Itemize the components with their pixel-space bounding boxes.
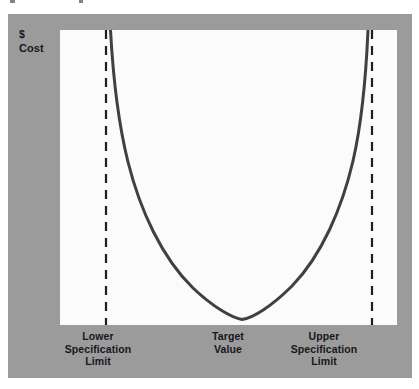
- upper-specification-limit-label: Upper Specification Limit: [244, 330, 404, 368]
- y-axis-currency-symbol: $: [19, 27, 44, 41]
- upper-limit-line1: Upper: [244, 330, 404, 343]
- upper-limit-line3: Limit: [244, 355, 404, 368]
- figure-panel: $ Cost Lower Specification Limit Target …: [8, 14, 412, 378]
- upper-limit-line2: Specification: [244, 343, 404, 356]
- caption-descender-mark: [79, 0, 83, 3]
- plot-area: [60, 30, 397, 325]
- caption-remnant: [0, 0, 419, 12]
- y-axis-title: Cost: [19, 41, 44, 55]
- lower-limit-line3: Limit: [18, 355, 178, 368]
- y-axis-label: $ Cost: [19, 27, 44, 55]
- loss-function-chart: [60, 30, 397, 325]
- caption-descender-mark: [10, 0, 15, 3]
- quality-loss-curve: [111, 30, 369, 320]
